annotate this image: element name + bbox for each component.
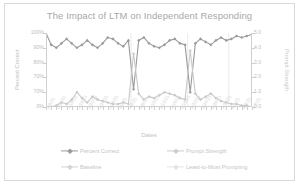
legend-swatch-ltm [167,164,184,170]
legend-item-ltm[interactable]: Least-to-Most Prompting [167,164,247,170]
y-tick-label-left: 0% [36,104,44,109]
legend-swatch-baseline [61,164,78,170]
y-tick-label-right: 3.0 [254,60,261,65]
axis-spine-left [46,33,47,107]
legend-item-percent-correct[interactable]: Percent Correct [61,148,119,154]
y-tick-label-right: 4.0 [254,45,261,50]
y-tick-label-right: 2.0 [254,75,261,80]
y-axis-right-title: Prompt Strength [282,33,292,107]
legend-label-prompt-strength: Prompt Strength [186,148,227,154]
legend-label-ltm: Least-to-Most Prompting [186,164,247,170]
legend-label-percent-correct: Percent Correct [80,148,119,154]
y-axis-left-title: Percent Correct [12,33,22,107]
y-tick-label-right: 5.0 [254,30,261,35]
y-tick-label-left: 70% [34,90,44,95]
legend-swatch-prompt-strength [167,148,184,154]
y-tick-label-right: 1.0 [254,90,261,95]
y-tick-label-left: 90% [34,45,44,50]
y-tick-label-left: 80% [34,60,44,65]
legend-label-baseline: Baseline [80,164,101,170]
chart-title: The Impact of LTM on Independent Respond… [5,10,294,21]
x-axis-labels: 2/9/212/11/212/16/212/18/212/22/212/24/2… [46,108,252,132]
legend-item-prompt-strength[interactable]: Prompt Strength [167,148,227,154]
chart-legend: Percent Correct Prompt Strength Baseline… [35,146,280,178]
chart-card: The Impact of LTM on Independent Respond… [4,3,295,181]
axis-spine-right [251,33,252,107]
y-tick-label-left: 100% [31,30,44,35]
y-tick-label-left: 70% [34,75,44,80]
x-axis-title: Dates [46,132,252,138]
legend-item-baseline[interactable]: Baseline [61,164,101,170]
legend-swatch-percent-correct [61,148,78,154]
